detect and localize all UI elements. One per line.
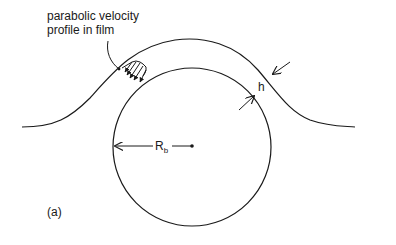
thickness-arrow-inner xyxy=(239,96,254,110)
annotation-line-2: profile in film xyxy=(47,23,114,37)
film-outer-surface xyxy=(22,39,355,127)
velocity-profile-arrows xyxy=(122,61,146,82)
annotation-line-1: parabolic velocity xyxy=(47,9,139,23)
annotation-leader-line xyxy=(107,41,119,69)
annotation-leader-dot xyxy=(118,68,121,71)
film-bubble-diagram: parabolic velocity profile in film h Rb … xyxy=(0,0,396,245)
thickness-arrow-outer xyxy=(273,62,290,74)
panel-label: (a) xyxy=(47,205,62,219)
bubble-circle xyxy=(113,68,271,226)
radius-label: Rb xyxy=(155,139,169,155)
thickness-label: h xyxy=(258,80,265,94)
